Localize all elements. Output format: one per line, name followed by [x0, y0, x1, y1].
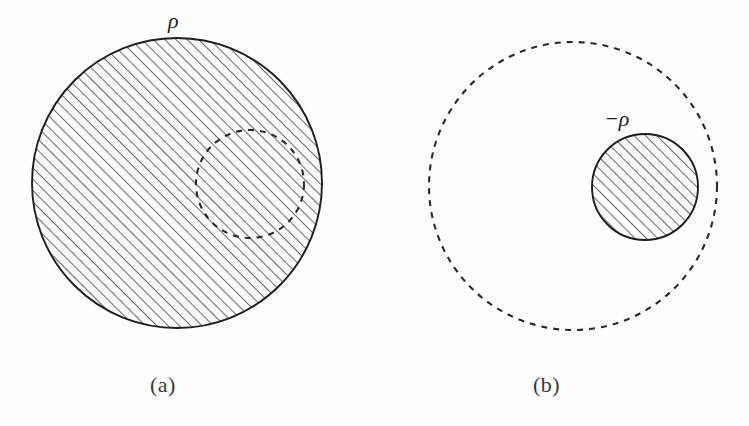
panel-a-charge-density-label: ρ [168, 8, 179, 34]
panel-a-caption: (a) [150, 372, 176, 398]
figure-root: ρ −ρ (a) (b) [0, 0, 749, 426]
figure-canvas [0, 0, 749, 426]
panel-b-charge-density-label: −ρ [604, 106, 629, 132]
panel-b-caption: (b) [533, 372, 560, 398]
